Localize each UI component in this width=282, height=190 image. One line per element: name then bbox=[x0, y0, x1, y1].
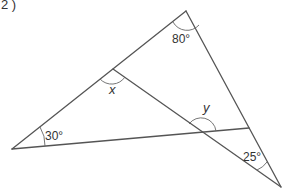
angle-label-x: x bbox=[108, 82, 116, 97]
line-x-bottomright bbox=[113, 69, 281, 187]
angle-label-80: 80° bbox=[172, 32, 190, 46]
angle-label-y: y bbox=[202, 100, 211, 115]
angle-label-30: 30° bbox=[45, 129, 63, 143]
line-top-bottomright bbox=[186, 11, 281, 187]
angle-label-25: 25° bbox=[243, 150, 261, 164]
angle-arc-y bbox=[189, 118, 216, 131]
geometry-figure: 80° 30° 25° x y bbox=[0, 0, 282, 190]
line-left-top bbox=[12, 11, 186, 149]
